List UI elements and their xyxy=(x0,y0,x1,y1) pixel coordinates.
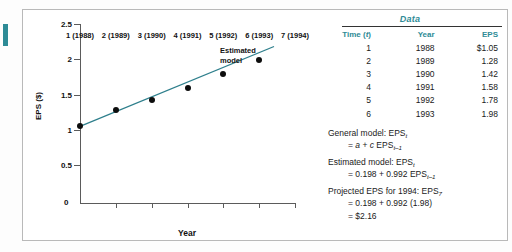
general-model-equation: = a + c EPSt–1 xyxy=(328,139,502,151)
x-tick-label: 5 (1992) xyxy=(209,31,237,40)
y-tick-label: 0.5 xyxy=(61,161,72,170)
cell-year: 1988 xyxy=(385,41,445,54)
y-tick-label: 2 xyxy=(68,55,72,64)
left-edge-marker xyxy=(3,24,8,46)
y-tick-label: 1 xyxy=(68,125,72,134)
cell-eps: 1.78 xyxy=(445,94,502,107)
cell-time: 2 xyxy=(318,54,385,67)
cell-year: 1991 xyxy=(385,81,445,94)
data-point xyxy=(77,123,83,129)
x-tick-label: 7 (1994) xyxy=(281,31,309,40)
cell-year: 1992 xyxy=(385,94,445,107)
x-tick-mark xyxy=(116,203,117,208)
data-point xyxy=(185,85,191,91)
annotation-line-2: model xyxy=(220,56,256,66)
figure-root: 0 0.5 1 1.5 2 2.5 xyxy=(0,0,512,252)
x-tick-label: 2 (1989) xyxy=(102,31,130,40)
cell-time: 1 xyxy=(318,41,385,54)
column-header-eps: EPS xyxy=(445,29,502,41)
projected-eps-block: Projected EPS for 1994: EPS7 = 0.198 + 0… xyxy=(328,185,502,221)
model-equations: General model: EPSt = a + c EPSt–1 Estim… xyxy=(318,127,502,221)
table-row: 5 1992 1.78 xyxy=(318,94,502,107)
annotation-line-1: Estimated xyxy=(220,46,256,56)
cell-time: 3 xyxy=(318,67,385,80)
cell-time: 6 xyxy=(318,107,385,120)
x-tick-label: 4 (1991) xyxy=(174,31,202,40)
x-tick-mark xyxy=(223,203,224,208)
x-tick-label: 3 (1990) xyxy=(138,31,166,40)
estimated-model-equation: = 0.198 + 0.992 EPSt–1 xyxy=(328,168,502,180)
table-row: 1 1988 $1.05 xyxy=(318,41,502,54)
cell-year: 1993 xyxy=(385,107,445,120)
table-row: 2 1989 1.28 xyxy=(318,54,502,67)
table-top-rule xyxy=(342,26,502,27)
cell-year: 1989 xyxy=(385,54,445,67)
x-tick-mark xyxy=(295,203,296,208)
table-body: 1 1988 $1.05 2 1989 1.28 3 1990 1.42 4 1… xyxy=(318,41,502,120)
general-model-block: General model: EPSt = a + c EPSt–1 xyxy=(328,127,502,151)
cell-eps: 1.42 xyxy=(445,67,502,80)
y-axis-title: EPS ($) xyxy=(34,92,43,120)
cell-year: 1990 xyxy=(385,67,445,80)
y-tick-label: 2.5 xyxy=(61,20,72,29)
x-tick-mark xyxy=(188,203,189,208)
y-tick-label-0: 0 xyxy=(64,198,68,207)
plot-area: 0.5 1 1.5 2 2.5 xyxy=(80,24,295,200)
estimated-model-annotation: Estimated model xyxy=(220,46,256,65)
y-tick-label: 1.5 xyxy=(61,90,72,99)
column-header-year: Year xyxy=(385,29,445,41)
data-table: Time (t) Year EPS 1 1988 $1.05 2 1989 1.… xyxy=(318,29,502,120)
x-tick-label: 1 (1988) xyxy=(66,31,94,40)
data-point xyxy=(220,71,226,77)
x-tick-mark xyxy=(152,203,153,208)
cell-eps: 1.28 xyxy=(445,54,502,67)
x-axis-title: Year xyxy=(178,228,196,238)
projected-eps-label: Projected EPS for 1994: EPS7 xyxy=(328,185,502,197)
table-row: 6 1993 1.98 xyxy=(318,107,502,120)
table-header-row: Time (t) Year EPS xyxy=(318,29,502,41)
cell-eps: 1.98 xyxy=(445,107,502,120)
projected-eps-result: = $2.16 xyxy=(328,210,502,222)
cell-eps: 1.58 xyxy=(445,81,502,94)
projected-eps-equation: = 0.198 + 0.992 (1.98) xyxy=(328,197,502,209)
estimated-model-block: Estimated model: EPSt = 0.198 + 0.992 EP… xyxy=(328,156,502,180)
data-point xyxy=(149,97,155,103)
table-row: 4 1991 1.58 xyxy=(318,81,502,94)
general-model-label: General model: EPSt xyxy=(328,127,502,139)
data-point xyxy=(113,107,119,113)
cell-time: 5 xyxy=(318,94,385,107)
data-point xyxy=(256,57,262,63)
data-table-caption: Data xyxy=(318,14,502,26)
chart-svg xyxy=(80,24,295,200)
x-tick-mark xyxy=(259,203,260,208)
table-row: 3 1990 1.42 xyxy=(318,67,502,80)
cell-eps: $1.05 xyxy=(445,41,502,54)
data-panel: Data Time (t) Year EPS 1 1988 $1.05 2 19… xyxy=(318,14,502,227)
column-header-time: Time (t) xyxy=(318,29,385,41)
x-tick-label: 6 (1993) xyxy=(245,31,273,40)
eps-scatter-chart: 0 0.5 1 1.5 2 2.5 xyxy=(24,10,310,240)
cell-time: 4 xyxy=(318,81,385,94)
estimated-model-label: Estimated model: EPSt xyxy=(328,156,502,168)
